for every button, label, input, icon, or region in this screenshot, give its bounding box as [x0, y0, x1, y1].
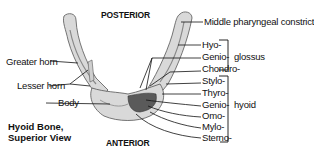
figure-title-line2: Superior View: [8, 132, 71, 143]
omohyoid-label: Omo-: [202, 111, 225, 121]
posterior-label: POSTERIOR: [101, 10, 150, 20]
chondroglossus-label: Chondro-: [202, 64, 240, 74]
anterior-label: ANTERIOR: [106, 138, 150, 148]
figure-title-line1: Hyoid Bone,: [8, 121, 71, 132]
middle-pharyngeal-label: Middle pharyngeal constricto: [204, 17, 314, 27]
body-label: Body: [58, 98, 79, 108]
geniohyoid-label: Genio-: [202, 100, 229, 110]
glossus-group-label: glossus: [234, 52, 265, 62]
lesser-horn-label: Lesser horn: [17, 81, 65, 91]
figure-title: Hyoid Bone, Superior View: [8, 121, 71, 143]
genioglossus-label: Genio-: [202, 52, 229, 62]
hyoid-group-label: hyoid: [234, 100, 256, 110]
greater-horn-label: Greater horn: [6, 57, 57, 67]
thyrohyoid-label: Thyro-: [202, 88, 228, 98]
mylohyoid-label: Mylo-: [202, 122, 224, 132]
hyoglossus-label: Hyo-: [202, 40, 221, 50]
stylohyoid-label: Stylo-: [202, 76, 225, 86]
sternohyoid-label: Sterno-: [202, 133, 232, 143]
